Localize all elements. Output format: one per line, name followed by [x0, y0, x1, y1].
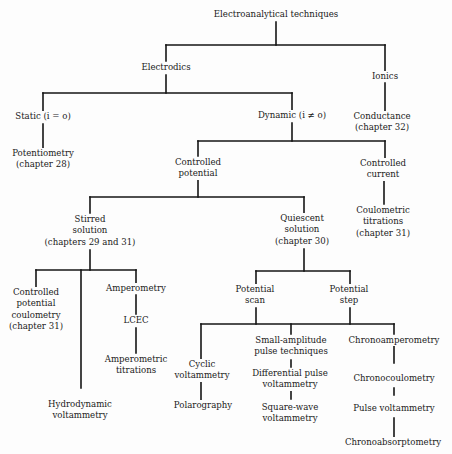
node-label-line-1: Controlled [9, 287, 63, 298]
node-label: Chronoabsorptometry [345, 437, 441, 448]
node-label-line-2: step [330, 295, 369, 306]
node-label: Electrodics [141, 62, 190, 73]
node-label-line-2: scan [236, 295, 275, 306]
node-label: Electroanalytical techniques [214, 9, 338, 20]
node-label-line-2: voltammetry [252, 379, 328, 390]
node-hydrodynamic-voltammetry: Hydrodynamic voltammetry [47, 399, 113, 422]
node-label-line-2: voltammetry [262, 413, 319, 424]
node-label-line-2: solution [45, 225, 136, 236]
node-dynamic: Dynamic (i ≠ o) [257, 110, 327, 121]
node-label: Ionics [372, 71, 398, 82]
node-label-line-1: Quiescent [275, 213, 329, 224]
node-label-line-1: Small-amplitude [254, 335, 328, 346]
node-label-line-1: Controlled [175, 157, 221, 168]
node-label-line-1: Coulometric [356, 205, 410, 216]
node-chronoabsorptometry: Chronoabsorptometry [344, 437, 442, 448]
node-label-line-1: Potentiometry [12, 148, 74, 159]
node-ionics: Ionics [371, 71, 399, 82]
node-label-line-3: (chapter 30) [275, 236, 329, 247]
node-label-line-2: titrations [356, 216, 410, 227]
node-polarography: Polarography [173, 400, 233, 411]
node-cyclic-voltammetry: Cyclic voltammetry [173, 359, 230, 382]
node-label-line-1: Potential [330, 284, 369, 295]
node-lcec: LCEC [122, 315, 149, 326]
node-stirred-solution: Stirred solution (chapters 29 and 31) [44, 214, 137, 248]
node-label-line-1: Stirred [45, 214, 136, 225]
node-label-line-2: titrations [105, 365, 168, 376]
node-label-line-1: Amperometric [105, 354, 168, 365]
node-potential-step: Potential step [329, 284, 370, 307]
node-label-line-1: Square-wave [262, 402, 319, 413]
node-potentiometry: Potentiometry (chapter 28) [11, 148, 75, 171]
node-label: Chronocoulometry [353, 373, 434, 384]
node-amperometric-titrations: Amperometric titrations [104, 354, 169, 377]
node-quiescent-solution: Quiescent solution (chapter 30) [274, 213, 330, 247]
node-small-amplitude-pulse-techniques: Small-amplitude pulse techniques [253, 335, 329, 358]
node-label-line-1: Hydrodynamic [48, 399, 112, 410]
node-square-wave-voltammetry: Square-wave voltammetry [261, 402, 320, 425]
node-label-line-2: current [360, 169, 406, 180]
node-label: Pulse voltammetry [353, 403, 434, 414]
node-label-line-2: (chapter 28) [12, 159, 74, 170]
node-label-line-3: (chapters 29 and 31) [45, 237, 136, 248]
node-label-line-1: Conductance [353, 111, 410, 122]
node-label-line-2: voltammetry [48, 410, 112, 421]
node-differential-pulse-voltammetry: Differential pulse voltammetry [251, 368, 329, 391]
node-label-line-1: Cyclic [174, 359, 229, 370]
node-chronocoulometry: Chronocoulometry [352, 373, 435, 384]
node-label-line-3: coulometry [9, 310, 63, 321]
node-label-line-2: potential [175, 168, 221, 179]
node-amperometry: Amperometry [105, 283, 167, 294]
node-electroanalytical-techniques: Electroanalytical techniques [213, 9, 339, 20]
node-coulometric-titrations: Coulometric titrations (chapter 31) [355, 205, 411, 239]
node-potential-scan: Potential scan [235, 284, 276, 307]
node-chronoamperometry: Chronoamperometry [348, 335, 441, 346]
node-label-line-1: Controlled [360, 158, 406, 169]
node-label: Polarography [174, 400, 232, 411]
node-conductance: Conductance (chapter 32) [352, 111, 411, 134]
node-label-line-4: (chapter 31) [9, 321, 63, 332]
node-label-line-2: pulse techniques [254, 346, 328, 357]
node-controlled-potential: Controlled potential [174, 157, 222, 180]
node-label-line-2: (chapter 32) [353, 122, 410, 133]
node-static: Static (i = o) [14, 111, 72, 122]
node-label-line-2: voltammetry [174, 370, 229, 381]
node-label: Static (i = o) [15, 111, 71, 122]
technique-tree-diagram: Electroanalytical techniques Electrodics… [0, 0, 452, 454]
node-label: Amperometry [106, 283, 166, 294]
node-controlled-potential-coulometry: Controlled potential coulometry (chapter… [8, 287, 64, 332]
node-label-line-1: Differential pulse [252, 368, 328, 379]
node-label: Dynamic (i ≠ o) [258, 110, 326, 121]
node-label: Chronoamperometry [349, 335, 440, 346]
node-label: LCEC [123, 315, 148, 326]
node-electrodics: Electrodics [140, 62, 191, 73]
node-pulse-voltammetry: Pulse voltammetry [352, 403, 435, 414]
node-label-line-2: solution [275, 224, 329, 235]
node-label-line-1: Potential [236, 284, 275, 295]
node-label-line-3: (chapter 31) [356, 228, 410, 239]
node-label-line-2: potential [9, 298, 63, 309]
node-controlled-current: Controlled current [359, 158, 407, 181]
